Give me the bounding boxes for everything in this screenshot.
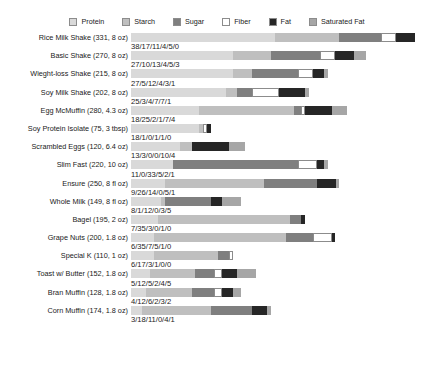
bar-segment-sugar[interactable] xyxy=(211,306,253,315)
bar-segment-fat[interactable] xyxy=(211,197,222,206)
bar-segment-fat[interactable] xyxy=(222,269,237,278)
bar-segment-starch[interactable] xyxy=(226,88,237,97)
legend-item-saturated-fat[interactable]: Saturated Fat xyxy=(309,17,365,26)
bar-segment-saturated-fat[interactable] xyxy=(332,106,347,115)
stacked-bar[interactable] xyxy=(131,288,241,297)
bar-segment-protein[interactable] xyxy=(131,288,146,297)
stacked-bar[interactable] xyxy=(131,124,211,133)
stacked-bar[interactable] xyxy=(131,215,305,224)
stacked-bar[interactable] xyxy=(131,269,256,278)
bar-segment-fat[interactable] xyxy=(335,51,354,60)
bar-segment-saturated-fat[interactable] xyxy=(354,51,365,60)
legend-item-fiber[interactable]: Fiber xyxy=(222,17,250,26)
stacked-bar[interactable] xyxy=(131,51,366,60)
bar-segment-fat[interactable] xyxy=(222,288,233,297)
bar-segment-sugar[interactable] xyxy=(218,251,229,260)
bar-segment-fiber[interactable] xyxy=(229,251,233,260)
bar-segment-sugar[interactable] xyxy=(173,160,298,169)
bar-segment-protein[interactable] xyxy=(131,106,199,115)
bar-segment-fat[interactable] xyxy=(305,106,332,115)
bar-segment-starch[interactable] xyxy=(275,33,339,42)
bar-segment-starch[interactable] xyxy=(165,179,263,188)
bar-segment-protein[interactable] xyxy=(131,124,199,133)
bar-segment-starch[interactable] xyxy=(233,69,252,78)
bar-segment-protein[interactable] xyxy=(131,197,161,206)
bar-segment-fiber[interactable] xyxy=(214,288,222,297)
stacked-bar[interactable] xyxy=(131,33,415,42)
bar-segment-saturated-fat[interactable] xyxy=(229,142,244,151)
bar-segment-saturated-fat[interactable] xyxy=(237,269,256,278)
bar-segment-fiber[interactable] xyxy=(252,88,279,97)
stacked-bar[interactable] xyxy=(131,251,233,260)
bar-segment-sugar[interactable] xyxy=(252,69,297,78)
legend-item-sugar[interactable]: Sugar xyxy=(173,17,204,26)
bar-segment-fiber[interactable] xyxy=(381,33,396,42)
stacked-bar[interactable] xyxy=(131,106,347,115)
bar-segment-fiber[interactable] xyxy=(214,269,222,278)
bar-segment-sugar[interactable] xyxy=(286,233,313,242)
stacked-bar[interactable] xyxy=(131,160,328,169)
bar-segment-protein[interactable] xyxy=(131,160,173,169)
stacked-bar[interactable] xyxy=(131,197,241,206)
bar-segment-sugar[interactable] xyxy=(264,179,317,188)
bar-segment-sugar[interactable] xyxy=(271,51,320,60)
bar-segment-starch[interactable] xyxy=(154,233,287,242)
bar-segment-sugar[interactable] xyxy=(290,215,301,224)
bar-segment-fat[interactable] xyxy=(301,215,305,224)
legend-item-protein[interactable]: Protein xyxy=(69,17,104,26)
bar-segment-saturated-fat[interactable] xyxy=(336,179,340,188)
bar-segment-protein[interactable] xyxy=(131,69,233,78)
bar-segment-starch[interactable] xyxy=(142,306,210,315)
bar-segment-protein[interactable] xyxy=(131,306,142,315)
bar-segment-fiber[interactable] xyxy=(320,51,335,60)
bar-segment-starch[interactable] xyxy=(150,269,195,278)
stacked-bar[interactable] xyxy=(131,179,339,188)
bar-segment-protein[interactable] xyxy=(131,233,154,242)
bar-segment-starch[interactable] xyxy=(180,142,191,151)
bar-segment-fat[interactable] xyxy=(192,142,230,151)
bar-segment-fat[interactable] xyxy=(279,88,306,97)
stacked-bar[interactable] xyxy=(131,88,309,97)
bar-segment-sugar[interactable] xyxy=(339,33,381,42)
bar-segment-fat[interactable] xyxy=(317,160,325,169)
bar-segment-fat[interactable] xyxy=(396,33,415,42)
stacked-bar[interactable] xyxy=(131,69,328,78)
bar-segment-fat[interactable] xyxy=(252,306,267,315)
bar-segment-starch[interactable] xyxy=(233,51,271,60)
bar-segment-saturated-fat[interactable] xyxy=(267,306,271,315)
bar-segment-protein[interactable] xyxy=(131,142,180,151)
bar-segment-saturated-fat[interactable] xyxy=(324,160,328,169)
bar-segment-sugar[interactable] xyxy=(165,197,210,206)
bar-segment-sugar[interactable] xyxy=(195,269,214,278)
bar-segment-protein[interactable] xyxy=(131,88,226,97)
bar-segment-fat[interactable] xyxy=(313,69,324,78)
bar-segment-protein[interactable] xyxy=(131,251,154,260)
bar-segment-starch[interactable] xyxy=(146,288,191,297)
bar-segment-saturated-fat[interactable] xyxy=(324,69,328,78)
bar-segment-fiber[interactable] xyxy=(313,233,332,242)
legend-item-fat[interactable]: Fat xyxy=(269,17,291,26)
legend-item-starch[interactable]: Starch xyxy=(122,17,155,26)
bar-segment-fat[interactable] xyxy=(332,233,336,242)
bar-segment-sugar[interactable] xyxy=(237,88,252,97)
bar-segment-protein[interactable] xyxy=(131,33,275,42)
bar-segment-saturated-fat[interactable] xyxy=(305,88,309,97)
bar-segment-fiber[interactable] xyxy=(298,160,317,169)
bar-segment-sugar[interactable] xyxy=(294,106,302,115)
bar-segment-starch[interactable] xyxy=(154,251,218,260)
stacked-bar[interactable] xyxy=(131,306,271,315)
bar-segment-fiber[interactable] xyxy=(298,69,313,78)
bar-segment-fat[interactable] xyxy=(317,179,336,188)
bar-segment-fat[interactable] xyxy=(207,124,211,133)
bar-segment-protein[interactable] xyxy=(131,51,233,60)
bar-segment-sugar[interactable] xyxy=(192,288,215,297)
stacked-bar[interactable] xyxy=(131,142,245,151)
bar-segment-saturated-fat[interactable] xyxy=(222,197,241,206)
bar-segment-protein[interactable] xyxy=(131,179,165,188)
bar-segment-protein[interactable] xyxy=(131,215,158,224)
stacked-bar[interactable] xyxy=(131,233,336,242)
bar-segment-starch[interactable] xyxy=(199,106,294,115)
bar-segment-protein[interactable] xyxy=(131,269,150,278)
bar-segment-saturated-fat[interactable] xyxy=(233,288,241,297)
bar-segment-starch[interactable] xyxy=(158,215,291,224)
